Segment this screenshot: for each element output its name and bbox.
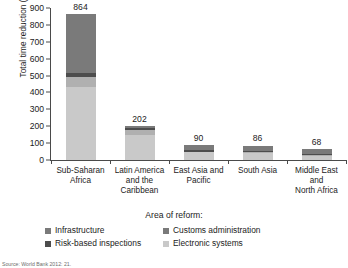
y-tick-mark-200 — [46, 126, 50, 127]
x-tick-mark — [287, 160, 288, 164]
bar-value-label: 90 — [194, 134, 204, 143]
bar-value-label: 86 — [253, 134, 263, 143]
bar-segment — [243, 153, 273, 160]
x-tick-mark — [228, 160, 229, 164]
stacked-bar[interactable] — [302, 149, 332, 160]
legend-title: Area of reform: — [0, 210, 348, 221]
legend-item[interactable]: Infrastructure — [45, 226, 163, 235]
y-tick-mark-800 — [46, 24, 50, 25]
legend-item[interactable]: Electronic systems — [163, 239, 303, 248]
y-tick-300: 300 — [30, 105, 44, 114]
legend-item-label: Risk-based inspections — [55, 239, 141, 248]
x-category-label: East Asia andPacific — [169, 166, 228, 186]
bar-segment — [184, 152, 214, 160]
bar-segment — [125, 135, 155, 160]
y-tick-800: 800 — [30, 21, 44, 30]
x-tick-mark — [346, 160, 347, 164]
x-axis-line — [50, 160, 346, 161]
bar-value-label: 202 — [132, 115, 146, 124]
bar-column: 86 — [228, 8, 287, 160]
y-tick-mark-600 — [46, 58, 50, 59]
chart-figure: Total time reduction (hours) 01002003004… — [0, 0, 348, 268]
x-category-label: Latin Americaand theCaribbean — [110, 166, 169, 196]
bar-segment — [66, 87, 96, 160]
x-category-label: Sub-SaharanAfrica — [51, 166, 110, 186]
x-tick-mark — [169, 160, 170, 164]
legend-item[interactable]: Customs administration — [163, 226, 303, 235]
bar-segment — [66, 14, 96, 73]
legend-swatch-icon — [45, 228, 51, 234]
y-tick-mark-300 — [46, 109, 50, 110]
bar-value-label: 864 — [73, 3, 87, 12]
legend-items: InfrastructureCustoms administrationRisk… — [45, 224, 303, 250]
legend-item-label: Customs administration — [173, 226, 261, 235]
bar-column: 202 — [110, 8, 169, 160]
bar-column: 864 — [51, 8, 110, 160]
legend-item-label: Electronic systems — [173, 239, 243, 248]
legend-item[interactable]: Risk-based inspections — [45, 239, 163, 248]
stacked-bar[interactable] — [66, 14, 96, 160]
plot-area: 864202908668 — [51, 8, 346, 160]
y-tick-mark-0 — [46, 160, 50, 161]
x-axis-category-labels: Sub-SaharanAfricaLatin Americaand theCar… — [51, 166, 346, 206]
bar-column: 90 — [169, 8, 228, 160]
y-tick-100: 100 — [30, 139, 44, 148]
y-tick-200: 200 — [30, 122, 44, 131]
legend-swatch-icon — [45, 241, 51, 247]
y-tick-900: 900 — [30, 4, 44, 13]
stacked-bar[interactable] — [243, 145, 273, 160]
legend-item-label: Infrastructure — [55, 226, 104, 235]
x-tick-mark — [51, 160, 52, 164]
bar-segment — [66, 77, 96, 87]
y-tick-400: 400 — [30, 88, 44, 97]
y-tick-mark-100 — [46, 143, 50, 144]
y-tick-700: 700 — [30, 37, 44, 46]
y-tick-mark-900 — [46, 8, 50, 9]
legend-swatch-icon — [163, 241, 169, 247]
legend-swatch-icon — [163, 228, 169, 234]
y-tick-600: 600 — [30, 54, 44, 63]
bar-segment — [302, 156, 332, 160]
chart-legend: Area of reform: InfrastructureCustoms ad… — [0, 210, 348, 250]
x-category-label: South Asia — [228, 166, 287, 176]
x-tick-mark — [110, 160, 111, 164]
stacked-bar[interactable] — [184, 145, 214, 160]
bar-column: 68 — [287, 8, 346, 160]
source-note: Source: World Bank 2012: 21. — [2, 261, 71, 267]
y-tick-mark-400 — [46, 92, 50, 93]
y-tick-0: 0 — [39, 156, 44, 165]
x-category-label: Middle EastandNorth Africa — [287, 166, 346, 196]
bar-value-label: 68 — [312, 138, 322, 147]
stacked-bar[interactable] — [125, 126, 155, 160]
y-tick-mark-700 — [46, 41, 50, 42]
y-axis-tick-labels: 0100200300400500600700800900 — [18, 8, 44, 160]
y-tick-500: 500 — [30, 71, 44, 80]
y-tick-mark-500 — [46, 75, 50, 76]
